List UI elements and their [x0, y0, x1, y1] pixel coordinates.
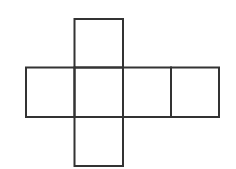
cube-face-top — [75, 19, 124, 68]
cube-face-middle-right — [123, 68, 171, 118]
cube-face-middle-center — [75, 68, 124, 118]
cube-face-middle-left — [26, 68, 75, 118]
cube-net-faces — [26, 19, 219, 166]
cube-face-far-right — [171, 68, 219, 118]
cube-face-bottom — [75, 117, 124, 166]
cube-net-diagram — [0, 0, 236, 169]
